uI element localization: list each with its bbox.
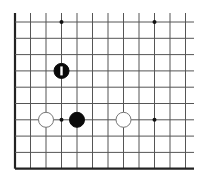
stones [39,63,132,127]
black-stone [54,63,69,78]
go-board [0,0,209,184]
star-point [60,118,64,122]
white-stone [116,112,131,127]
last-move-marker-icon [60,66,62,75]
stone-body [116,112,131,127]
board-grid [15,13,194,169]
white-stone [39,112,54,127]
star-point [60,20,64,24]
stone-body [39,112,54,127]
black-stone [70,112,85,127]
star-point [153,20,157,24]
stone-body [70,112,85,127]
star-point [153,118,157,122]
